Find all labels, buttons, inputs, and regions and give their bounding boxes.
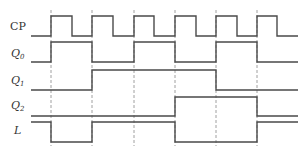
label-q0: Q0 bbox=[11, 47, 25, 61]
label-l: L bbox=[13, 124, 21, 137]
label-q1: Q1 bbox=[11, 74, 25, 88]
waveform-l bbox=[31, 122, 298, 142]
timing-diagram: CP Q0 Q1 Q2 L bbox=[0, 0, 308, 154]
waveform-q0 bbox=[31, 42, 298, 62]
waveform-cp bbox=[31, 16, 298, 36]
label-q2: Q2 bbox=[11, 99, 25, 113]
waveform-q1 bbox=[31, 70, 298, 90]
label-cp: CP bbox=[10, 20, 26, 33]
waveform-q2 bbox=[31, 97, 298, 116]
